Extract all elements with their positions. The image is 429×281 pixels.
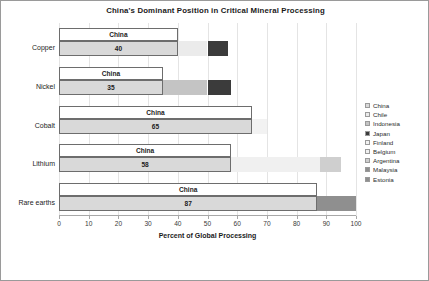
legend-label: Estonia — [373, 176, 394, 183]
legend-item-japan[interactable]: Japan — [365, 129, 427, 138]
x-tick-label: 50 — [204, 220, 211, 227]
bar-segment-china: 40 — [59, 41, 178, 56]
x-tick-label: 80 — [293, 220, 300, 227]
legend-label: Belgium — [373, 148, 395, 155]
legend-label: Malaysia — [373, 166, 397, 173]
x-tick-label: 60 — [234, 220, 241, 227]
bar-segment-indonesia — [163, 80, 208, 95]
legend-swatch-chile — [365, 112, 370, 117]
bar-segment-china: 58 — [59, 157, 231, 172]
data-label-box: China — [59, 106, 252, 119]
x-tick-label: 100 — [350, 220, 361, 227]
bar-segment-japan — [208, 41, 229, 56]
legend-label: Argentina — [373, 157, 400, 164]
y-axis-label-cobalt: Cobalt — [35, 122, 55, 129]
legend-item-finland[interactable]: Finland — [365, 138, 427, 147]
x-axis-title: Percent of Global Processing — [59, 232, 356, 239]
bar-segment-finland — [252, 119, 267, 134]
bar-row: 40 — [59, 41, 356, 56]
legend-label: Chile — [373, 111, 387, 118]
x-tick-label: 70 — [263, 220, 270, 227]
x-tick-label: 30 — [144, 220, 151, 227]
x-tick-label: 40 — [174, 220, 181, 227]
x-tick-label: 0 — [57, 220, 61, 227]
bar-value-label: 35 — [60, 81, 162, 94]
legend-item-indonesia[interactable]: Indonesia — [365, 119, 427, 128]
bar-row: 65 — [59, 119, 356, 134]
bar-row: 35 — [59, 80, 356, 95]
legend-label: China — [373, 102, 389, 109]
legend-label: Indonesia — [373, 120, 400, 127]
bar-value-label: 87 — [60, 197, 316, 210]
legend-label: Japan — [373, 130, 390, 137]
data-label-box: China — [59, 183, 317, 196]
data-label-box: China — [59, 28, 178, 41]
legend-swatch-estonia — [365, 177, 370, 182]
bar-segment-china: 87 — [59, 196, 317, 211]
legend-label: Finland — [373, 139, 393, 146]
legend-swatch-argentina — [365, 158, 370, 163]
chart-figure: China's Dominant Position in Critical Mi… — [0, 0, 429, 281]
x-tick-label: 90 — [323, 220, 330, 227]
x-tick-label: 20 — [115, 220, 122, 227]
legend-item-argentina[interactable]: Argentina — [365, 156, 427, 165]
plot-area: China40China35China65China58China87 — [59, 23, 356, 216]
y-axis-label-rare-earths: Rare earths — [18, 199, 55, 206]
bar-value-label: 58 — [60, 158, 230, 171]
bar-segment-china: 65 — [59, 119, 252, 134]
bar-segment-belgium — [231, 157, 320, 172]
legend-item-belgium[interactable]: Belgium — [365, 147, 427, 156]
y-axis-label-copper: Copper — [32, 44, 55, 51]
axis-tick — [356, 216, 357, 219]
bar-value-label: 65 — [60, 120, 251, 133]
legend-swatch-finland — [365, 140, 370, 145]
data-label-box: China — [59, 67, 163, 80]
legend-swatch-china — [365, 103, 370, 108]
legend-swatch-indonesia — [365, 121, 370, 126]
bar-segment-japan — [208, 80, 232, 95]
chart-title: China's Dominant Position in Critical Mi… — [1, 6, 429, 15]
bar-segment-argentina — [320, 157, 341, 172]
chart-legend: ChinaChileIndonesiaJapanFinlandBelgiumAr… — [365, 101, 427, 184]
legend-swatch-japan — [365, 131, 370, 136]
legend-item-chile[interactable]: Chile — [365, 110, 427, 119]
y-axis-label-nickel: Nickel — [36, 83, 55, 90]
legend-swatch-malaysia — [365, 167, 370, 172]
gridline — [356, 23, 357, 216]
x-axis-tick-labels: 0102030405060708090100 — [59, 216, 356, 230]
y-axis-category-labels: CopperNickelCobaltLithiumRare earths — [1, 23, 55, 216]
legend-item-estonia[interactable]: Estonia — [365, 175, 427, 184]
bar-segment-china: 35 — [59, 80, 163, 95]
y-axis-label-lithium: Lithium — [32, 160, 55, 167]
bar-segment-chile — [178, 41, 208, 56]
bar-segment-malaysia — [317, 196, 344, 211]
legend-swatch-belgium — [365, 149, 370, 154]
bar-value-label: 40 — [60, 42, 177, 55]
data-label-box: China — [59, 144, 231, 157]
legend-item-malaysia[interactable]: Malaysia — [365, 165, 427, 174]
x-tick-label: 10 — [85, 220, 92, 227]
bar-row: 87 — [59, 196, 356, 211]
bar-row: 58 — [59, 157, 356, 172]
legend-item-china[interactable]: China — [365, 101, 427, 110]
bar-segment-estonia — [344, 196, 356, 211]
